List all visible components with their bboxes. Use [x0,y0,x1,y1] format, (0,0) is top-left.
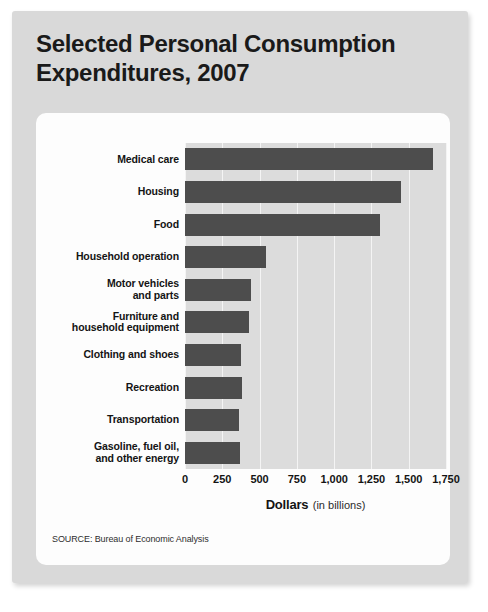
x-tick-label-1000: 1,000 [320,473,348,485]
plot-area [185,143,446,469]
chart-page: Selected Personal Consumption Expenditur… [0,0,488,612]
x-tick-label-500: 500 [250,473,268,485]
category-label-0: Medical care [36,154,179,166]
x-tick-label-250: 250 [213,473,231,485]
category-label-line: Household operation [36,251,179,263]
bar-fill [185,214,380,236]
bar-fill [185,442,240,464]
bar-fill [185,279,251,301]
bar-1 [185,181,401,203]
category-label-line: Housing [36,186,179,198]
category-label-line: Food [36,219,179,231]
bar-fill [185,344,241,366]
bar-2 [185,214,380,236]
category-label-5: Furniture andhousehold equipment [36,311,179,334]
gridline [446,143,447,469]
bar-5 [185,311,249,333]
bar-fill [185,311,249,333]
category-label-6: Clothing and shoes [36,349,179,361]
x-tick-label-1250: 1,250 [358,473,386,485]
category-label-line: household equipment [36,322,179,334]
bar-chart: Medical careHousingFoodHousehold operati… [36,113,450,565]
x-axis-title-main: Dollars [266,497,309,512]
category-label-line: and parts [36,290,179,302]
x-tick-label-0: 0 [182,473,188,485]
bar-fill [185,409,239,431]
category-label-3: Household operation [36,251,179,263]
x-tick-label-1500: 1,500 [395,473,423,485]
bar-3 [185,246,266,268]
category-label-line: Medical care [36,154,179,166]
category-axis-labels: Medical careHousingFoodHousehold operati… [36,143,179,469]
category-label-line: Motor vehicles [36,278,179,290]
bar-4 [185,279,251,301]
category-label-7: Recreation [36,382,179,394]
category-label-1: Housing [36,186,179,198]
bar-8 [185,409,239,431]
category-label-8: Transportation [36,414,179,426]
category-label-2: Food [36,219,179,231]
category-label-line: Clothing and shoes [36,349,179,361]
category-label-line: and other energy [36,453,179,465]
x-tick-label-1750: 1,750 [432,473,460,485]
page-title: Selected Personal Consumption Expenditur… [36,29,436,88]
x-axis-title: Dollars (in billions) [185,495,446,513]
page-title-line-2: Expenditures, 2007 [36,58,436,87]
chart-card: Selected Personal Consumption Expenditur… [12,11,468,583]
source-note: SOURCE: Bureau of Economic Analysis [52,534,209,544]
chart-panel: Medical careHousingFoodHousehold operati… [36,113,450,565]
bar-0 [185,148,433,170]
bar-fill [185,246,266,268]
bar-7 [185,377,242,399]
bar-6 [185,344,241,366]
category-label-line: Transportation [36,414,179,426]
category-label-4: Motor vehiclesand parts [36,278,179,301]
x-axis-tick-labels: 02505007501,0001,2501,5001,750 [185,473,446,489]
x-tick-label-750: 750 [288,473,306,485]
bars-group [185,143,446,469]
bar-9 [185,442,240,464]
bar-fill [185,377,242,399]
page-title-line-1: Selected Personal Consumption [36,29,436,58]
category-label-line: Gasoline, fuel oil, [36,441,179,453]
bar-fill [185,148,433,170]
category-label-line: Recreation [36,382,179,394]
x-axis-title-units: (in billions) [313,499,366,511]
bar-fill [185,181,401,203]
category-label-9: Gasoline, fuel oil,and other energy [36,441,179,464]
